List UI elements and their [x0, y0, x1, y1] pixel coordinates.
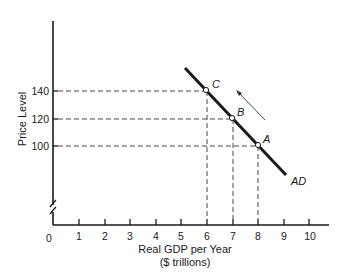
- x-tick-labels: 0 1 2 3 4 5 6 7 8 9 10: [46, 230, 316, 244]
- point-a-label: A: [262, 133, 270, 145]
- point-b-marker: [229, 115, 234, 120]
- x-axis-title: Real GDP per Year: [138, 243, 232, 255]
- point-a-marker: [255, 142, 260, 147]
- ad-curve-label: AD: [290, 175, 306, 187]
- y-tick-labels: 140 120 100: [31, 85, 49, 152]
- x-tick-1: 1: [76, 230, 82, 242]
- point-b-label: B: [237, 106, 244, 118]
- x-ticks: [79, 219, 309, 225]
- x-tick-10: 10: [304, 230, 316, 242]
- x-tick-6: 6: [204, 230, 210, 242]
- point-c-label: C: [212, 78, 220, 90]
- x-tick-4: 4: [153, 230, 159, 242]
- x-tick-2: 2: [102, 230, 108, 242]
- x-tick-0: 0: [46, 232, 52, 244]
- y-axis-title: Price Level: [16, 92, 28, 146]
- point-c-marker: [203, 87, 208, 92]
- x-tick-7: 7: [230, 230, 236, 242]
- y-tick-120: 120: [31, 113, 49, 125]
- y-tick-100: 100: [31, 140, 49, 152]
- y-tick-140: 140: [31, 85, 49, 97]
- ad-curve: [185, 68, 286, 175]
- x-axis-subtitle: ($ trillions): [160, 256, 211, 268]
- dashed-guides: [58, 91, 258, 219]
- x-tick-3: 3: [127, 230, 133, 242]
- aggregate-demand-chart: 0 1 2 3 4 5 6 7 8 9 10 140 120 100 C B: [0, 0, 341, 278]
- x-tick-5: 5: [178, 230, 184, 242]
- x-tick-8: 8: [255, 230, 261, 242]
- x-tick-9: 9: [281, 230, 287, 242]
